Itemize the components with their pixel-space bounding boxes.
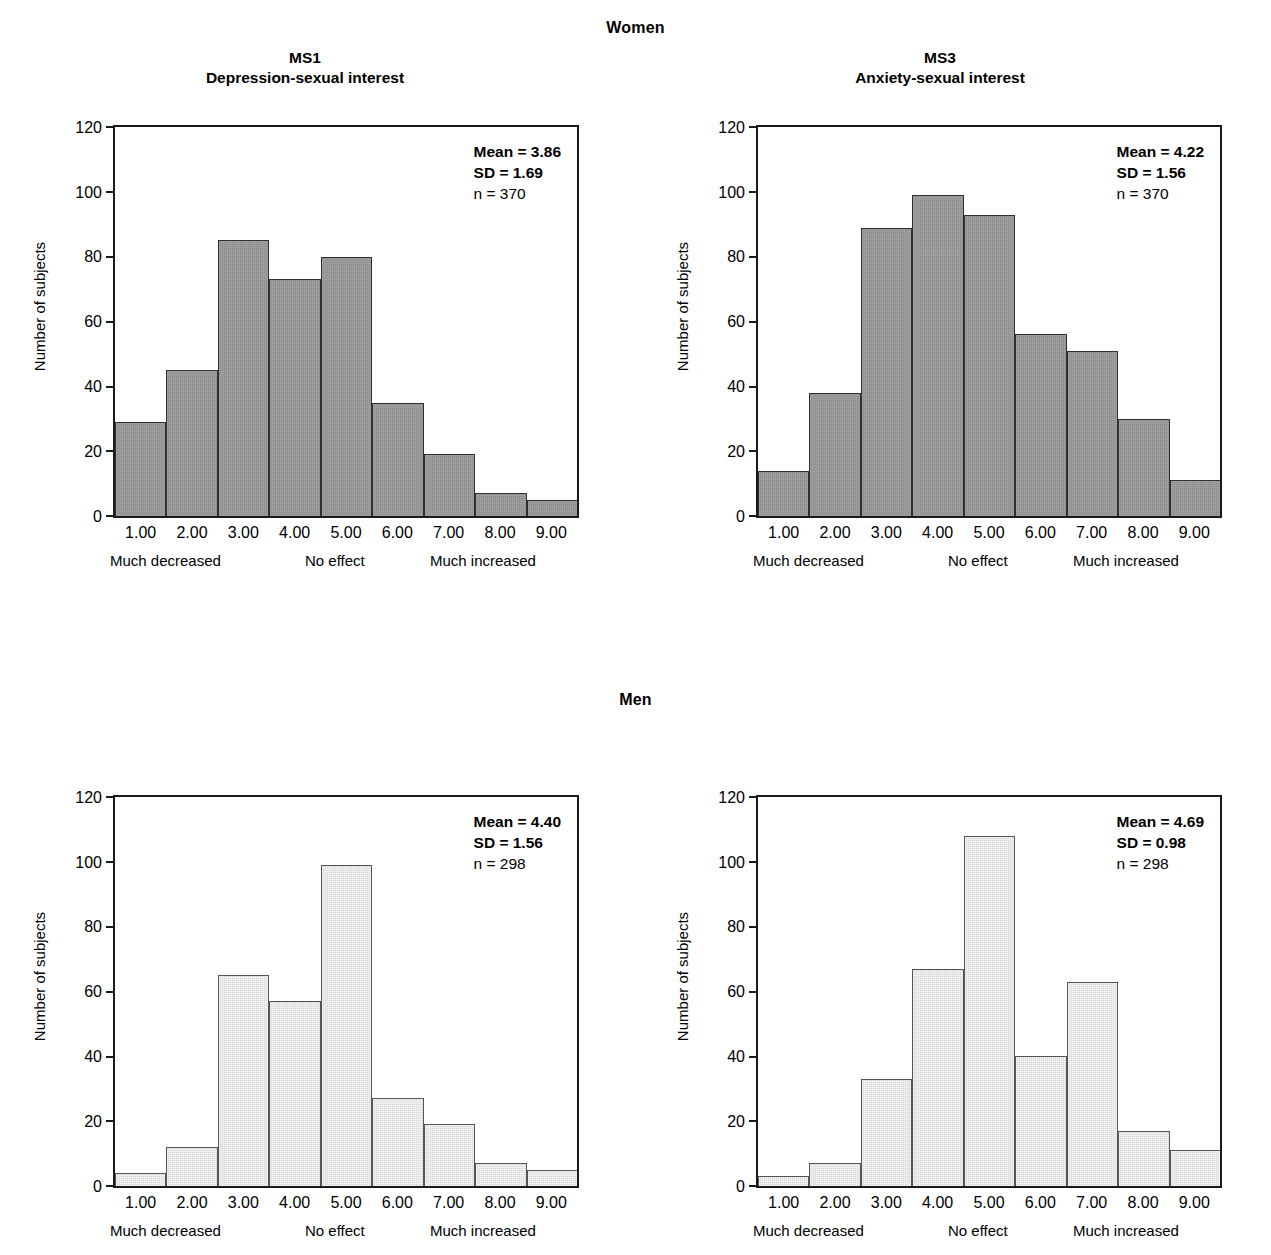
x-tick-label: 3.00 bbox=[218, 524, 269, 542]
y-tick-label: 20 bbox=[727, 444, 745, 460]
histogram-bar bbox=[424, 454, 475, 516]
y-tick-label: 20 bbox=[84, 444, 102, 460]
chart-panel-men-ms3: Number of subjects 020406080100120 1.002… bbox=[640, 718, 1240, 1255]
x-tick-label: 6.00 bbox=[372, 1194, 423, 1212]
histogram-bar bbox=[1118, 1131, 1169, 1186]
histogram-bar bbox=[809, 393, 860, 516]
x-tick-label: 5.00 bbox=[320, 524, 371, 542]
y-tick-label: 120 bbox=[718, 120, 745, 136]
x-tick-label: 3.00 bbox=[861, 1194, 912, 1212]
x-tick-label: 4.00 bbox=[269, 524, 320, 542]
y-axis-tick: 100 bbox=[75, 853, 115, 871]
histogram-bar bbox=[1015, 1056, 1066, 1186]
x-tick-label: 9.00 bbox=[526, 524, 577, 542]
histogram-bar bbox=[269, 1001, 320, 1186]
y-tick-mark bbox=[106, 991, 115, 993]
y-tick-label: 20 bbox=[84, 1114, 102, 1130]
plot-area: 020406080100120 1.002.003.004.005.006.00… bbox=[113, 795, 579, 1188]
panel-code: MS1 bbox=[289, 49, 321, 66]
stat-sd: SD = 1.56 bbox=[474, 832, 561, 853]
x-tick-label: 4.00 bbox=[269, 1194, 320, 1212]
histogram-bar bbox=[758, 471, 809, 516]
x-tick-label: 2.00 bbox=[166, 524, 217, 542]
y-tick-label: 80 bbox=[727, 249, 745, 265]
y-tick-label: 80 bbox=[727, 919, 745, 935]
panel-subtitle: Depression-sexual interest bbox=[5, 68, 605, 88]
y-tick-label: 40 bbox=[727, 1049, 745, 1065]
y-axis-tick: 120 bbox=[718, 788, 758, 806]
stats-annotation: Mean = 4.22 SD = 1.56 n = 370 bbox=[1117, 141, 1204, 204]
anchor-labels: Much decreased No effect Much increased bbox=[640, 1222, 1240, 1244]
histogram-bar bbox=[372, 1098, 423, 1186]
y-axis-tick: 60 bbox=[727, 313, 758, 331]
x-tick-label: 2.00 bbox=[166, 1194, 217, 1212]
x-tick-label: 5.00 bbox=[963, 524, 1014, 542]
anchor-low: Much decreased bbox=[110, 1222, 221, 1239]
x-tick-label: 3.00 bbox=[861, 524, 912, 542]
histogram-bar bbox=[758, 1176, 809, 1186]
anchor-high: Much increased bbox=[430, 1222, 536, 1239]
y-tick-mark bbox=[106, 1056, 115, 1058]
x-tick-label: 7.00 bbox=[1066, 524, 1117, 542]
y-axis-label: Number of subjects bbox=[674, 857, 691, 1097]
y-axis-tick: 120 bbox=[75, 788, 115, 806]
x-tick-label: 9.00 bbox=[526, 1194, 577, 1212]
y-axis-tick: 100 bbox=[718, 853, 758, 871]
chart-panel-women-ms1: MS1 Depression-sexual interest Number of… bbox=[5, 48, 605, 608]
stat-sd: SD = 0.98 bbox=[1117, 832, 1204, 853]
histogram-bar bbox=[1067, 982, 1118, 1186]
x-tick-label: 5.00 bbox=[320, 1194, 371, 1212]
stat-n: n = 370 bbox=[474, 183, 561, 204]
stat-sd: SD = 1.69 bbox=[474, 162, 561, 183]
y-axis-tick: 0 bbox=[736, 507, 758, 525]
y-tick-label: 100 bbox=[718, 855, 745, 871]
y-tick-label: 40 bbox=[727, 379, 745, 395]
stats-annotation: Mean = 4.40 SD = 1.56 n = 298 bbox=[474, 811, 561, 874]
histogram-bar bbox=[527, 1170, 577, 1186]
stat-sd: SD = 1.56 bbox=[1117, 162, 1204, 183]
y-tick-mark bbox=[106, 191, 115, 193]
y-tick-label: 100 bbox=[718, 185, 745, 201]
y-tick-label: 100 bbox=[75, 185, 102, 201]
x-tick-label: 1.00 bbox=[115, 1194, 166, 1212]
histogram-bar bbox=[861, 228, 912, 517]
x-tick-label: 2.00 bbox=[809, 524, 860, 542]
y-tick-label: 0 bbox=[93, 509, 102, 525]
y-tick-label: 80 bbox=[84, 249, 102, 265]
histogram-bar bbox=[1170, 480, 1220, 516]
stat-n: n = 298 bbox=[474, 853, 561, 874]
y-axis-tick: 20 bbox=[84, 442, 115, 460]
y-tick-mark bbox=[106, 1185, 115, 1187]
y-tick-mark bbox=[749, 386, 758, 388]
y-tick-mark bbox=[749, 926, 758, 928]
anchor-mid: No effect bbox=[948, 1222, 1008, 1239]
x-tick-label: 8.00 bbox=[1117, 1194, 1168, 1212]
histogram-bar bbox=[912, 195, 963, 516]
x-tick-group: 1.002.003.004.005.006.007.008.009.00 bbox=[115, 1186, 577, 1212]
histogram-bar bbox=[1015, 334, 1066, 516]
x-tick-label: 1.00 bbox=[758, 1194, 809, 1212]
y-tick-label: 80 bbox=[84, 919, 102, 935]
x-tick-label: 5.00 bbox=[963, 1194, 1014, 1212]
histogram-bar bbox=[424, 1124, 475, 1186]
x-tick-label: 8.00 bbox=[1117, 524, 1168, 542]
histogram-bar bbox=[475, 493, 526, 516]
histogram-bar bbox=[1170, 1150, 1220, 1186]
y-axis-tick: 60 bbox=[727, 983, 758, 1001]
x-tick-group: 1.002.003.004.005.006.007.008.009.00 bbox=[758, 516, 1220, 542]
y-tick-label: 100 bbox=[75, 855, 102, 871]
x-tick-label: 7.00 bbox=[423, 1194, 474, 1212]
plot-area: 020406080100120 1.002.003.004.005.006.00… bbox=[756, 125, 1222, 518]
x-tick-label: 1.00 bbox=[115, 524, 166, 542]
y-tick-mark bbox=[749, 450, 758, 452]
y-axis-tick: 80 bbox=[84, 918, 115, 936]
histogram-bar bbox=[527, 500, 577, 516]
x-tick-label: 6.00 bbox=[1015, 524, 1066, 542]
y-tick-mark bbox=[749, 515, 758, 517]
anchor-mid: No effect bbox=[305, 1222, 365, 1239]
histogram-bar bbox=[218, 975, 269, 1186]
y-tick-label: 120 bbox=[75, 790, 102, 806]
y-tick-label: 0 bbox=[736, 509, 745, 525]
group-header-men: Men bbox=[0, 691, 1271, 709]
histogram-bar bbox=[115, 422, 166, 516]
